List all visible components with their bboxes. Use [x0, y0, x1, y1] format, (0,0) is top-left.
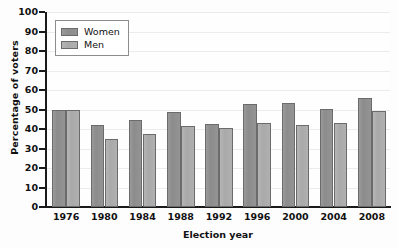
x-tick-label-1992: 1992: [200, 212, 238, 222]
bar-men-1980: [105, 139, 119, 207]
bar-men-1984: [143, 134, 157, 207]
y-tick-mark: [39, 148, 45, 150]
y-tick-label: 0: [8, 202, 38, 212]
y-tick-mark: [39, 128, 45, 130]
y-tick-mark: [39, 89, 45, 91]
y-axis-title: Percentage of voters: [9, 28, 20, 168]
bar-men-1992: [219, 128, 233, 207]
legend-item-men: Men: [61, 38, 120, 51]
bar-women-2000: [282, 103, 296, 207]
x-tick-label-2008: 2008: [353, 212, 391, 222]
bar-women-2004: [320, 109, 334, 207]
x-tick-label-1996: 1996: [238, 212, 276, 222]
x-tick-label-1980: 1980: [85, 212, 123, 222]
y-tick-mark: [39, 206, 45, 208]
bar-men-1996: [257, 123, 271, 207]
legend-label-men: Men: [84, 40, 104, 50]
bar-women-1980: [91, 125, 105, 207]
y-tick-mark: [39, 31, 45, 33]
x-axis-title: Election year: [46, 229, 390, 240]
legend-label-women: Women: [84, 27, 120, 37]
bar-chart-screenshot: 1009080706050403020100 Percentage of vot…: [0, 0, 398, 248]
bar-men-1976: [66, 110, 80, 207]
y-tick-mark: [39, 50, 45, 52]
bar-women-1984: [129, 120, 143, 207]
bar-men-2000: [296, 125, 310, 207]
x-tick-label-2004: 2004: [315, 212, 353, 222]
bar-men-2004: [334, 123, 348, 207]
bar-women-1992: [205, 124, 219, 207]
y-tick-mark: [39, 11, 45, 13]
bar-women-1976: [52, 110, 66, 207]
y-tick-mark: [39, 70, 45, 72]
y-tick-mark: [39, 109, 45, 111]
y-tick-mark: [39, 167, 45, 169]
bar-men-1988: [181, 126, 195, 207]
bar-women-2008: [358, 98, 372, 207]
bar-women-1988: [167, 112, 181, 207]
bar-women-1996: [243, 104, 257, 207]
y-tick-mark: [39, 187, 45, 189]
legend-item-women: Women: [61, 25, 120, 38]
x-tick-label-1976: 1976: [47, 212, 85, 222]
chart-legend: Women Men: [55, 20, 129, 56]
x-tick-label-1984: 1984: [123, 212, 161, 222]
bar-men-2008: [372, 111, 386, 207]
y-tick-label: 100: [8, 7, 38, 17]
x-tick-label-1988: 1988: [162, 212, 200, 222]
legend-swatch-women-icon: [61, 28, 78, 36]
y-tick-label: 10: [8, 183, 38, 193]
x-tick-label-2000: 2000: [276, 212, 314, 222]
legend-swatch-men-icon: [61, 41, 78, 49]
